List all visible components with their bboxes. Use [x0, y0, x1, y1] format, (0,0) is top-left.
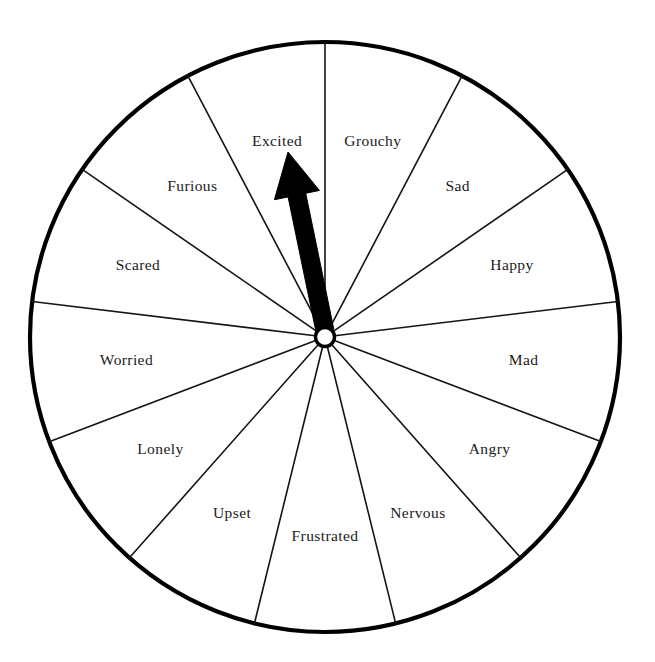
wheel-hub-ring[interactable] [316, 328, 335, 347]
segment-label-worried: Worried [100, 351, 153, 368]
segment-label-angry: Angry [469, 440, 511, 457]
segment-label-nervous: Nervous [390, 504, 445, 521]
segment-label-lonely: Lonely [137, 440, 183, 457]
spinner-wheel-stage: ExcitedGrouchySadHappyMadAngryNervousFru… [0, 0, 655, 662]
segment-label-furious: Furious [167, 177, 217, 194]
spinner-wheel-graphic[interactable]: ExcitedGrouchySadHappyMadAngryNervousFru… [0, 0, 655, 662]
segment-label-excited: Excited [252, 132, 302, 149]
segment-label-happy: Happy [490, 256, 533, 273]
segment-label-scared: Scared [116, 256, 161, 273]
segment-label-grouchy: Grouchy [344, 132, 401, 149]
segment-label-upset: Upset [213, 504, 251, 521]
segment-label-mad: Mad [509, 351, 539, 368]
segment-label-frustrated: Frustrated [292, 527, 359, 544]
segment-label-sad: Sad [445, 177, 469, 194]
